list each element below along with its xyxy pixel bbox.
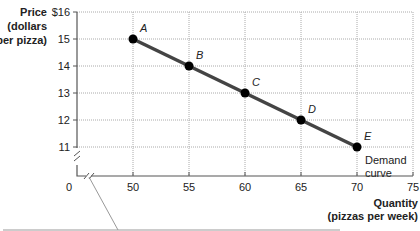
data-point-b: [185, 62, 194, 71]
y-axis-label: per pizza): [0, 34, 47, 46]
x-tick-label: 70: [351, 181, 363, 193]
demand-curve: ABCDE: [129, 22, 373, 152]
y-axis-break-icon: [74, 151, 80, 161]
y-tick-label: 15: [58, 33, 70, 45]
demand-curve-label: curve: [365, 167, 392, 179]
x-axis-label: (pizzas per week): [328, 210, 419, 222]
point-label: A: [139, 22, 147, 34]
point-label: E: [364, 130, 372, 142]
data-point-c: [241, 89, 250, 98]
callout-line: [89, 177, 118, 230]
x-tick-label: 65: [295, 181, 307, 193]
x-tick-label: 55: [183, 181, 195, 193]
demand-chart: $1615141312110505560657075 ABCDE Demandc…: [0, 0, 420, 231]
y-axis-label: Price: [20, 6, 47, 18]
y-tick-label: 13: [58, 87, 70, 99]
x-tick-label: 75: [407, 181, 419, 193]
y-tick-label: 11: [59, 141, 70, 153]
x-tick-label: 60: [239, 181, 251, 193]
x-axis-label: Quantity: [373, 197, 418, 209]
y-tick-label: 14: [58, 60, 70, 72]
x-tick-label: 50: [127, 181, 139, 193]
tick-labels: $1615141312110505560657075: [52, 6, 419, 193]
point-label: B: [196, 49, 203, 61]
y-tick-label: 12: [58, 114, 70, 126]
point-label: C: [252, 76, 260, 88]
x-tick-label: 0: [66, 181, 72, 193]
y-axis-label: (dollars: [7, 20, 47, 32]
data-point-a: [129, 35, 138, 44]
y-tick-label: $16: [52, 6, 70, 18]
y-axis-lower: [77, 165, 86, 176]
demand-curve-label: Demand: [365, 154, 407, 166]
data-point-e: [353, 143, 362, 152]
point-label: D: [308, 103, 316, 115]
data-point-d: [297, 116, 306, 125]
